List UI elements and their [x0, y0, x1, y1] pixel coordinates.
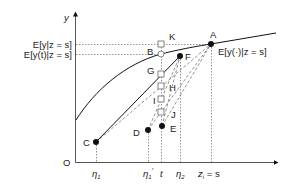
point-G [158, 71, 164, 77]
eyt-label: E[y(t)|z = s] [24, 49, 72, 60]
y-axis-label: y [63, 12, 70, 23]
label-A: A [210, 29, 217, 40]
label-D: D [133, 127, 140, 138]
dashed-lines [96, 44, 211, 142]
label-H: H [169, 82, 176, 93]
label-I: I [153, 95, 156, 106]
y-level-labels: E[y|z = s] E[y(t)|z = s] [24, 39, 72, 60]
point-J [158, 109, 164, 115]
point-B [158, 51, 164, 57]
x-tick-labels: η1 η1′ t η2 zi = s [92, 167, 220, 180]
label-K: K [169, 31, 176, 42]
label-J: J [171, 109, 176, 120]
tick-t: t [160, 168, 163, 179]
curve-label: E[y(·)|z = s] [218, 46, 267, 57]
point-C [93, 139, 99, 145]
tick-eta1-prime: η1′ [143, 167, 154, 180]
point-F [177, 53, 183, 59]
label-F: F [185, 51, 191, 62]
point-A [208, 41, 214, 47]
label-E: E [170, 123, 176, 134]
line-C-A [96, 44, 211, 142]
label-C: C [83, 137, 90, 148]
point-D [145, 127, 151, 133]
point-I [158, 96, 164, 102]
label-G: G [147, 65, 154, 76]
tick-eta1: η1 [92, 168, 101, 180]
tick-zs: zi = s [197, 168, 220, 180]
diagram-canvas: y O [0, 0, 287, 184]
label-B: B [147, 46, 153, 57]
point-H [158, 83, 164, 89]
tick-eta2: η2 [176, 168, 185, 180]
point-K [158, 41, 164, 47]
point-E [159, 123, 165, 129]
origin-label: O [63, 157, 70, 168]
